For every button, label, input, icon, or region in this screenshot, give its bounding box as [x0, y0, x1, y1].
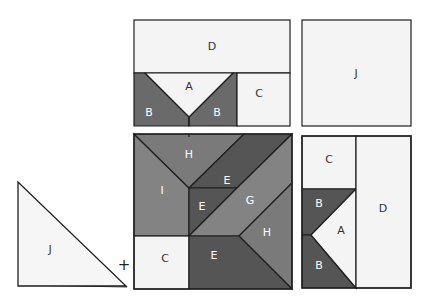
label-e-top: E	[224, 174, 231, 187]
label-j-triangle: J	[47, 243, 51, 256]
label-i: I	[160, 184, 163, 197]
label-b-left: B	[145, 106, 153, 119]
top-left-panel	[134, 20, 290, 126]
label-b-bottom: B	[315, 259, 323, 272]
label-e-middle: E	[199, 200, 206, 213]
label-d: D	[208, 40, 216, 53]
piece-j-triangle	[18, 182, 126, 286]
label-j-square: J	[353, 67, 357, 80]
label-b-right: B	[213, 106, 221, 119]
label-b-top: B	[315, 197, 323, 210]
label-a: A	[185, 80, 193, 93]
label-c-main: C	[161, 252, 169, 265]
label-c: C	[255, 87, 263, 100]
label-h-right: H	[263, 226, 271, 239]
piece-c	[237, 73, 290, 126]
label-h-top: H	[185, 148, 193, 161]
triangle-piece	[18, 182, 127, 287]
label-a-right: A	[337, 224, 345, 237]
label-d-right: D	[379, 202, 387, 215]
main-square	[134, 134, 292, 289]
label-e-bottom: E	[211, 249, 218, 262]
plus-sign: +	[118, 256, 131, 274]
label-c-right: C	[325, 153, 333, 166]
quilt-diagram: D A B B C J J + H I E E G H	[0, 0, 424, 301]
label-g: G	[246, 194, 255, 207]
